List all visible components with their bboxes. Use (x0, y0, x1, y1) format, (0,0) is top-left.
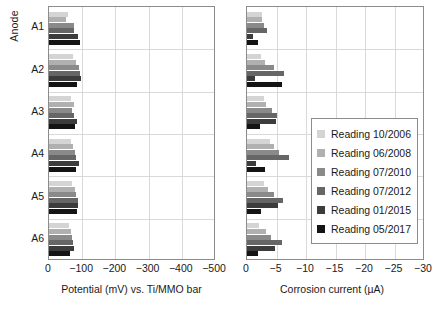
bar (49, 12, 68, 17)
x-axis-tick: −20 (355, 262, 373, 274)
bar (247, 34, 253, 39)
bar (49, 235, 72, 240)
bar (49, 40, 80, 45)
bar (49, 209, 77, 214)
legend-label: Reading 06/2008 (331, 147, 411, 159)
bar (49, 251, 70, 256)
legend-item[interactable]: Reading 07/2012 (317, 181, 411, 200)
bar (247, 119, 276, 124)
bar (49, 150, 75, 155)
bar (247, 181, 264, 186)
bar (49, 167, 76, 172)
bar (247, 82, 282, 87)
bar (247, 187, 268, 192)
legend-swatch-icon (317, 187, 325, 195)
bar-group (49, 92, 214, 134)
bar (49, 28, 74, 33)
bar (49, 65, 79, 70)
bar-group (49, 7, 214, 49)
bar (49, 23, 74, 28)
y-axis-tick-a5: A5 (18, 190, 44, 202)
bar (247, 40, 258, 45)
legend-item[interactable]: Reading 05/2017 (317, 219, 411, 238)
bar (49, 76, 81, 81)
bar (247, 167, 265, 172)
bar (49, 223, 69, 228)
x-axis-tick: −30 (414, 262, 432, 274)
x-axis-tick: −15 (326, 262, 344, 274)
bar-group (247, 49, 423, 91)
x-axis-tick: −500 (202, 262, 226, 274)
legend: Reading 10/2006Reading 06/2008Reading 07… (311, 118, 418, 244)
bar (247, 150, 279, 155)
bar (247, 246, 275, 251)
bar (49, 203, 78, 208)
bar-group (49, 134, 214, 176)
x-axis-tick: −200 (103, 262, 127, 274)
bar (247, 60, 265, 65)
bar-group (247, 7, 423, 49)
bar (247, 139, 270, 144)
bar (247, 28, 267, 33)
y-axis-tick-a4: A4 (18, 147, 44, 159)
legend-label: Reading 07/2010 (331, 166, 411, 178)
bar (49, 187, 75, 192)
bar (49, 54, 73, 59)
bar (247, 155, 289, 160)
legend-label: Reading 10/2006 (331, 128, 411, 140)
bar-group (49, 219, 214, 259)
bar (247, 251, 258, 256)
bar (247, 240, 282, 245)
x-axis-tick: −400 (169, 262, 193, 274)
bar (49, 240, 73, 245)
bar (49, 192, 76, 197)
bar (247, 235, 271, 240)
bar (49, 82, 77, 87)
bar (247, 54, 261, 59)
bar (247, 203, 278, 208)
panel-potential (48, 6, 215, 260)
bar (247, 76, 255, 81)
legend-item[interactable]: Reading 06/2008 (317, 143, 411, 162)
legend-item[interactable]: Reading 10/2006 (317, 124, 411, 143)
y-axis-tick-a2: A2 (18, 63, 44, 75)
bar (247, 198, 283, 203)
bar (49, 119, 77, 124)
legend-item[interactable]: Reading 01/2015 (317, 200, 411, 219)
bar (49, 139, 71, 144)
y-axis-tick-a1: A1 (18, 20, 44, 32)
bar (247, 96, 264, 101)
legend-label: Reading 07/2012 (331, 185, 411, 197)
bar (49, 71, 80, 76)
legend-item[interactable]: Reading 07/2010 (317, 162, 411, 181)
legend-swatch-icon (317, 206, 325, 214)
bar (49, 198, 78, 203)
x-axis-title-potential: Potential (mV) vs. Ti/MMO bar (48, 283, 215, 295)
y-axis-tick-a3: A3 (18, 105, 44, 117)
bar (247, 209, 261, 214)
legend-swatch-icon (317, 168, 325, 176)
bar (247, 113, 277, 118)
x-axis-tick: −25 (385, 262, 403, 274)
bar (247, 144, 274, 149)
y-axis-tick-a6: A6 (18, 232, 44, 244)
bar (49, 34, 78, 39)
bar (49, 17, 66, 22)
x-axis-title-corrosion-current: Corrosion current (µA) (240, 283, 424, 295)
bar (247, 223, 259, 228)
bar (49, 102, 74, 107)
bar (49, 108, 72, 113)
bar-group (49, 49, 214, 91)
legend-swatch-icon (317, 130, 325, 138)
bar (49, 155, 76, 160)
bar (247, 161, 256, 166)
bar (247, 23, 264, 28)
bar (247, 229, 266, 234)
plot-area-potential (49, 7, 214, 259)
legend-swatch-icon (317, 149, 325, 157)
bar (247, 102, 266, 107)
bar (247, 65, 274, 70)
bar (49, 181, 72, 186)
x-axis-tick: −100 (69, 262, 93, 274)
